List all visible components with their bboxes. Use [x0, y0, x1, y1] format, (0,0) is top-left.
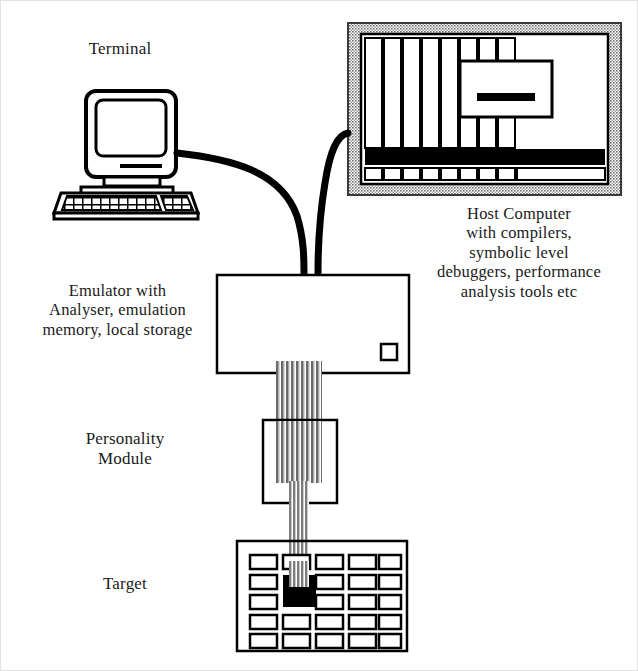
host-panel-bar	[477, 93, 535, 101]
label-emulator: Emulator with Analyser, emulation memory…	[15, 281, 220, 339]
terminal-base	[104, 177, 160, 186]
host-bottom-tabs	[365, 168, 605, 180]
terminal-keypad	[161, 196, 193, 210]
ribbon-inside-personality	[276, 421, 322, 483]
label-host-computer: Host Computer with compilers, symbolic l…	[399, 204, 638, 301]
ribbon-tail-into-socket	[289, 561, 309, 587]
target-chip-row	[250, 555, 401, 569]
host-computer-graphic	[348, 23, 621, 195]
terminal-disk-slot	[120, 164, 162, 168]
target-chip-row	[250, 634, 401, 648]
target-chip-row	[250, 615, 401, 629]
target-chip-row	[250, 595, 401, 609]
terminal-screen	[96, 100, 166, 156]
terminal-keyboard-front	[54, 213, 198, 219]
terminal-key-field	[62, 196, 161, 210]
diagram-canvas: Terminal Host Computer with compilers, s…	[0, 0, 638, 671]
emulator-indicator-square	[381, 344, 397, 360]
host-panel	[460, 61, 552, 117]
emulator-graphic	[217, 275, 409, 373]
label-personality-module: Personality Module	[45, 429, 205, 469]
host-panel-window	[460, 61, 552, 117]
target-board-graphic	[237, 541, 407, 651]
cable-host-to-emulator	[318, 133, 348, 273]
label-terminal: Terminal	[45, 39, 195, 59]
label-target: Target	[45, 574, 205, 594]
host-black-bar	[365, 149, 605, 165]
